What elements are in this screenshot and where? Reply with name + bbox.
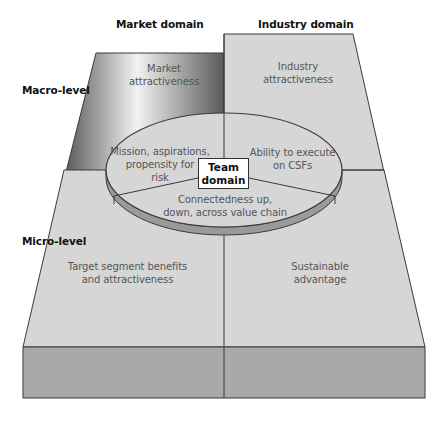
ability-execute-text: Ability to executeon CSFs <box>245 146 340 172</box>
target-segment-text: Target segment benefitsand attractivenes… <box>60 260 195 286</box>
industry-attractiveness-text: Industryattractiveness <box>238 60 358 86</box>
micro-level-label: Micro-level <box>22 235 86 247</box>
industry-domain-label: Industry domain <box>258 18 354 30</box>
sustainable-advantage-text: Sustainableadvantage <box>260 260 380 286</box>
market-attractiveness-text: Marketattractiveness <box>104 62 224 88</box>
connectedness-text: Connectedness up,down, across value chai… <box>160 193 290 219</box>
macro-level-label: Macro-level <box>22 84 90 96</box>
team-domain-box: Teamdomain <box>198 158 249 189</box>
mission-aspirations-text: Mission, aspirations,propensity forrisk <box>110 145 210 184</box>
market-domain-label: Market domain <box>116 18 204 30</box>
